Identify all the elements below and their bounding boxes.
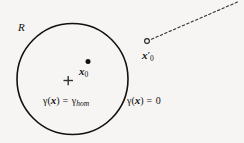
interior-gamma-hom-subscript: hom xyxy=(76,99,89,108)
region-label: R xyxy=(18,22,25,33)
interior-point-dot xyxy=(86,59,91,64)
interior-equals-sign: = xyxy=(60,95,72,106)
exterior-point-label: x′0 xyxy=(142,50,154,63)
region-boundary-circle xyxy=(17,24,128,135)
interior-point-label-subscript: 0 xyxy=(85,70,89,79)
interior-point-label: x0 xyxy=(79,66,88,79)
interior-gamma-equation: γ(x) = γhom xyxy=(43,95,89,108)
center-cross-marker xyxy=(64,76,74,85)
exterior-equals-sign: = xyxy=(144,95,156,106)
exterior-point-label-subscript: 0 xyxy=(150,54,154,63)
dashed-ray-line xyxy=(152,2,239,39)
figure-canvas: R x0 x′0 γ(x) = γhom γ(x) = 0 xyxy=(0,0,244,143)
figure-vector-layer xyxy=(0,0,244,143)
exterior-gamma-equation: γ(x) = 0 xyxy=(127,95,161,106)
exterior-zero-value: 0 xyxy=(156,95,161,106)
region-label-text: R xyxy=(18,21,25,33)
exterior-point-open-circle xyxy=(145,39,150,44)
